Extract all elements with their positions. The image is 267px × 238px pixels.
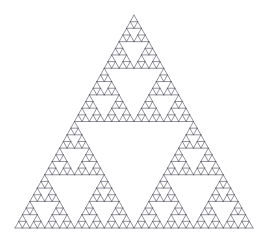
sierpinski-triangle-figure	[0, 0, 267, 238]
figure-background	[0, 0, 267, 238]
figure-root	[0, 0, 267, 238]
